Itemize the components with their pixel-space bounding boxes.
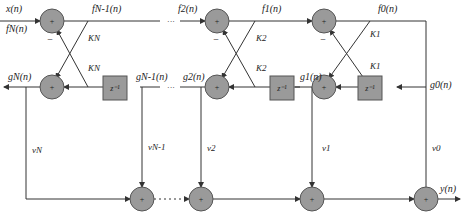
svg-text:z⁻¹: z⁻¹ [109, 84, 120, 93]
svg-text:−: − [47, 34, 53, 45]
label-kN-top: KN [88, 34, 100, 43]
label-vN: vN [32, 146, 42, 155]
svg-text:+: + [140, 195, 145, 204]
lattice-diagram: ++ ++ ++ ++ ++ z⁻¹ z⁻¹ z⁻¹ − − − ··· ··· [0, 0, 464, 220]
label-f1: f1(n) [262, 4, 281, 14]
label-fN-1: fN-1(n) [92, 4, 121, 14]
label-kN-bot: KN [88, 64, 100, 73]
svg-text:+: + [322, 83, 327, 92]
svg-text:z⁻¹: z⁻¹ [364, 84, 375, 93]
label-fN: fN(n) [6, 24, 27, 34]
label-k1-top: K1 [370, 30, 381, 39]
label-g2: g2(n) [183, 72, 205, 82]
label-g1: g1(n) [300, 72, 322, 82]
svg-text:+: + [199, 195, 204, 204]
label-k1-bot: K1 [370, 62, 381, 71]
label-gN-1: gN-1(n) [136, 72, 168, 82]
svg-text:+: + [322, 17, 327, 26]
svg-text:+: + [50, 83, 55, 92]
svg-text:···: ··· [167, 83, 175, 92]
svg-text:+: + [215, 17, 220, 26]
svg-text:+: + [50, 17, 55, 26]
label-g0: g0(n) [430, 80, 452, 90]
svg-text:···: ··· [167, 17, 175, 26]
label-v1: v1 [322, 144, 331, 153]
label-x: x(n) [6, 4, 22, 14]
label-k2-top: K2 [256, 34, 267, 43]
label-v0: v0 [432, 144, 441, 153]
svg-text:+: + [215, 83, 220, 92]
label-f0: f0(n) [378, 4, 397, 14]
label-f2: f2(n) [178, 4, 197, 14]
svg-text:−: − [213, 34, 219, 45]
label-gN: gN(n) [8, 72, 31, 82]
svg-text:+: + [310, 195, 315, 204]
label-vN-1: vN-1 [148, 143, 166, 152]
svg-text:z⁻¹: z⁻¹ [276, 84, 287, 93]
label-y: y(n) [440, 184, 456, 194]
svg-text:+: + [424, 195, 429, 204]
label-k2-bot: K2 [256, 64, 267, 73]
label-v2: v2 [207, 144, 216, 153]
svg-text:−: − [320, 34, 326, 45]
